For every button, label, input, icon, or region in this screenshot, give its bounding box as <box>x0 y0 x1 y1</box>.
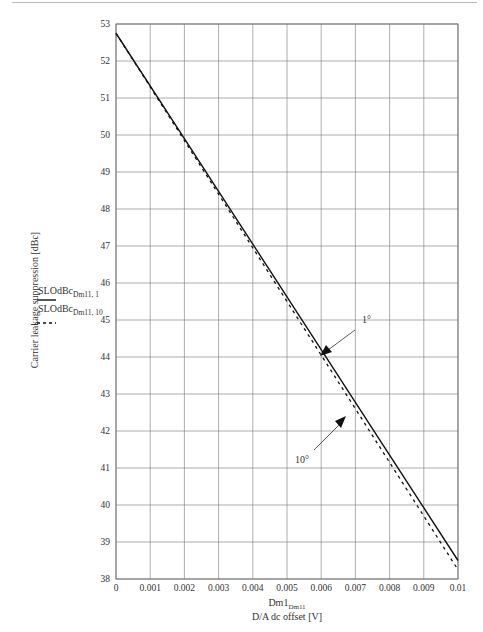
x-tick-label: 0.01 <box>450 583 467 593</box>
x-tick-label: 0 <box>114 583 119 593</box>
legend-item-2-label: SLOdBcDm11, 10 <box>38 303 103 317</box>
x-axis-ticks: 00.0010.0020.0030.0040.0050.0060.0070.00… <box>114 583 467 593</box>
arrow-head-icon <box>335 416 346 428</box>
line-chart: 38394041424344454647484950515253 00.0010… <box>0 0 483 632</box>
legend: SLOdBcDm11, 1 SLOdBcDm11, 10 <box>37 285 103 323</box>
x-tick-label: 0.008 <box>379 583 401 593</box>
legend-item-1-label: SLOdBcDm11, 1 <box>38 285 99 299</box>
y-tick-label: 46 <box>101 278 111 288</box>
x-tick-label: 0.007 <box>345 583 367 593</box>
y-tick-label: 39 <box>101 537 111 547</box>
x-tick-label: 0.006 <box>311 583 333 593</box>
y-tick-label: 40 <box>101 500 111 510</box>
y-tick-label: 51 <box>101 93 111 103</box>
annotation-1deg-label: 1° <box>362 314 371 325</box>
x-tick-label: 0.005 <box>276 583 298 593</box>
x-tick-label: 0.004 <box>242 583 264 593</box>
x-tick-label: 0.009 <box>413 583 435 593</box>
x-tick-label: 0.001 <box>140 583 162 593</box>
chart-grid <box>116 24 458 579</box>
y-tick-label: 48 <box>101 204 111 214</box>
y-tick-label: 52 <box>101 56 111 66</box>
y-tick-label: 42 <box>101 426 111 436</box>
y-tick-label: 53 <box>101 19 111 29</box>
y-tick-label: 49 <box>101 167 111 177</box>
x-axis-label: Dm1Dm11 <box>268 597 306 611</box>
x-axis-label-units: D/A dc offset [V] <box>252 611 322 622</box>
y-tick-label: 44 <box>101 352 111 362</box>
x-tick-label: 0.002 <box>174 583 196 593</box>
y-tick-label: 50 <box>101 130 111 140</box>
y-tick-label: 38 <box>101 574 111 584</box>
y-axis-ticks: 38394041424344454647484950515253 <box>101 19 111 584</box>
annotation-10deg-label: 10° <box>295 454 309 465</box>
annotation-10deg: 10° <box>295 416 346 465</box>
y-tick-label: 43 <box>101 389 111 399</box>
y-tick-label: 41 <box>101 463 111 473</box>
x-tick-label: 0.003 <box>208 583 230 593</box>
y-tick-label: 47 <box>101 241 111 251</box>
